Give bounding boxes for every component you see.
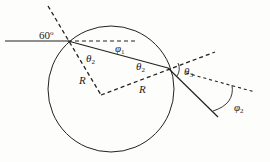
label-phi2: φ2 (234, 102, 244, 115)
label-phi1: φ1 (115, 43, 125, 56)
inside-ray-extension-dashed (186, 73, 255, 92)
entry-normal-dashed (48, 6, 101, 95)
label-theta3: θ3 (184, 66, 193, 79)
phi2-arc (213, 85, 232, 111)
label-theta2-entry: θ2 (86, 53, 95, 66)
label-radius-2: R (139, 84, 146, 95)
exit-normal-dashed (101, 52, 215, 95)
label-theta2-exit: θ2 (136, 61, 145, 74)
diagram-svg (0, 0, 270, 162)
label-incidence-angle: 60o (39, 30, 54, 41)
label-radius-1: R (79, 75, 86, 86)
sphere-outline (48, 26, 174, 152)
diagram-canvas: 60o φ1 θ2 θ2 θ3 φ2 R R (0, 0, 270, 162)
theta3-arc (177, 63, 179, 76)
